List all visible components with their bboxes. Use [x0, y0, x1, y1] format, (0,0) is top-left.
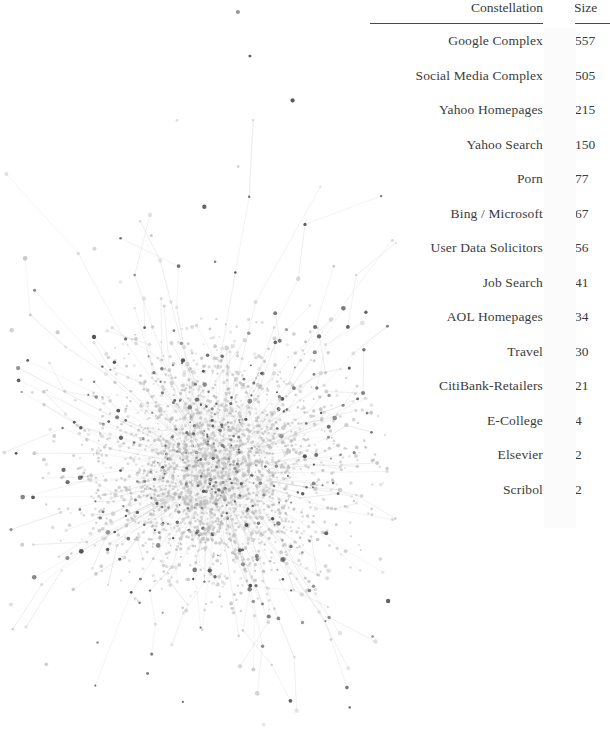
graph-node	[137, 521, 140, 524]
graph-node	[250, 501, 253, 504]
constellation-size: 30	[575, 335, 610, 370]
graph-node	[238, 431, 240, 433]
graph-node	[210, 447, 213, 450]
graph-node	[95, 492, 97, 494]
graph-node	[162, 502, 165, 505]
graph-node	[178, 448, 182, 452]
graph-node	[99, 564, 103, 568]
graph-node	[167, 542, 170, 545]
graph-node	[171, 453, 174, 456]
graph-edge	[13, 585, 42, 630]
graph-node	[142, 531, 145, 534]
graph-node	[149, 589, 151, 591]
graph-node	[222, 511, 225, 514]
graph-node	[184, 436, 188, 440]
graph-node	[215, 402, 217, 404]
graph-node	[262, 723, 266, 727]
graph-node	[252, 529, 254, 531]
graph-node	[79, 426, 83, 430]
graph-node	[48, 362, 50, 364]
graph-node	[130, 498, 133, 501]
graph-node	[255, 448, 258, 451]
graph-node	[136, 511, 139, 514]
graph-node	[259, 435, 261, 437]
graph-node	[205, 603, 207, 605]
graph-node	[181, 424, 183, 426]
graph-node	[272, 374, 274, 376]
graph-node	[116, 425, 119, 428]
graph-node	[296, 277, 300, 281]
graph-node	[190, 451, 193, 454]
graph-node	[139, 486, 142, 489]
graph-node	[290, 501, 292, 503]
graph-node	[235, 469, 238, 472]
graph-node	[283, 533, 285, 535]
graph-node	[209, 474, 212, 477]
graph-node	[298, 527, 300, 529]
graph-node	[240, 610, 242, 612]
graph-node	[168, 463, 170, 465]
graph-node	[182, 701, 184, 703]
graph-node	[309, 304, 312, 307]
graph-node	[286, 449, 291, 454]
graph-node	[126, 462, 129, 465]
graph-node	[141, 544, 144, 547]
graph-node	[234, 420, 236, 422]
graph-node	[200, 477, 202, 479]
graph-node	[303, 353, 305, 355]
graph-node	[239, 381, 242, 384]
graph-node	[286, 343, 289, 346]
graph-node	[311, 472, 314, 475]
graph-node	[243, 382, 245, 384]
graph-node	[166, 480, 169, 483]
graph-node	[217, 583, 220, 586]
graph-node	[295, 451, 298, 454]
graph-node	[119, 237, 122, 240]
graph-node	[158, 531, 161, 534]
graph-node	[231, 500, 233, 502]
graph-node	[322, 498, 325, 501]
graph-node	[173, 498, 175, 500]
graph-node	[323, 521, 326, 524]
graph-node	[241, 428, 245, 432]
graph-node	[264, 465, 267, 468]
graph-node	[247, 399, 252, 404]
graph-node	[289, 424, 291, 426]
graph-node	[213, 395, 215, 397]
graph-node	[261, 428, 263, 430]
graph-node	[277, 508, 281, 512]
color-swatch	[546, 133, 572, 156]
graph-node	[236, 483, 239, 486]
graph-node	[210, 601, 213, 604]
table-row: Yahoo Homepages215	[370, 93, 610, 128]
graph-node	[63, 390, 66, 393]
graph-node	[130, 517, 133, 520]
graph-node	[260, 479, 262, 481]
graph-edge	[278, 524, 311, 537]
graph-node	[150, 653, 153, 656]
column-header-constellation: Constellation	[370, 0, 543, 24]
graph-node	[145, 474, 148, 477]
graph-node	[164, 470, 166, 472]
graph-node	[189, 417, 192, 420]
graph-node	[94, 685, 96, 687]
graph-node	[253, 482, 255, 484]
graph-edge	[172, 613, 184, 645]
graph-node	[252, 119, 254, 121]
graph-edge	[19, 380, 167, 451]
color-swatch-cell	[543, 24, 575, 59]
graph-node	[200, 357, 203, 360]
graph-node	[296, 547, 298, 549]
graph-node	[119, 436, 123, 440]
graph-node	[72, 454, 75, 457]
graph-node	[320, 412, 322, 414]
graph-node	[178, 529, 181, 532]
graph-node	[248, 458, 251, 461]
graph-node	[138, 468, 140, 470]
graph-node	[143, 480, 146, 483]
graph-node	[237, 459, 240, 462]
graph-node	[186, 384, 189, 387]
graph-node	[200, 317, 203, 320]
graph-node	[134, 334, 136, 336]
graph-node	[179, 504, 181, 506]
